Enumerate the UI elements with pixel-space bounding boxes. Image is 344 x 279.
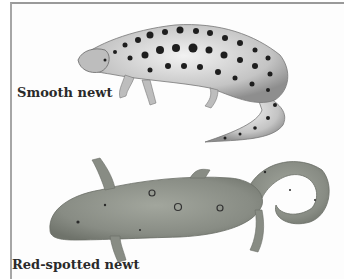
smooth-newt-drawing	[78, 25, 288, 142]
smooth-newt-label: Smooth newt	[17, 85, 112, 100]
red-spotted-newt-label: Red-spotted newt	[12, 257, 139, 272]
newt-illustration	[0, 0, 344, 279]
red-spotted-newt-drawing	[50, 158, 329, 262]
